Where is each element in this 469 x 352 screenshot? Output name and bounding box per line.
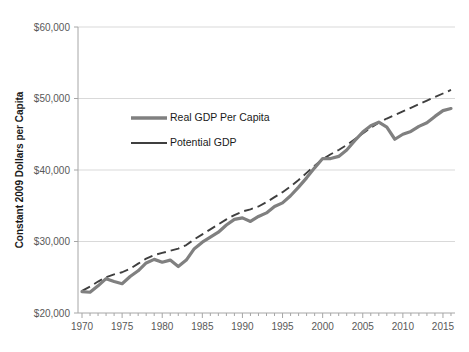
y-axis-tick-label: $60,000 <box>34 22 71 33</box>
x-axis-tick-label: 1990 <box>231 321 254 332</box>
x-axis-tick-label: 2005 <box>352 321 375 332</box>
x-axis-tick-label: 2000 <box>312 321 335 332</box>
x-axis-tick-label: 2015 <box>432 321 455 332</box>
y-axis-tick-label: $20,000 <box>34 308 71 319</box>
x-axis-tick-label: 1970 <box>71 321 94 332</box>
y-axis-title: Constant 2009 Dollars per Capita <box>14 91 25 248</box>
x-axis-tick-label: 1995 <box>271 321 294 332</box>
x-axis-tick-label: 1980 <box>151 321 174 332</box>
x-axis-tick-label: 2010 <box>392 321 415 332</box>
legend-label: Real GDP Per Capita <box>170 111 270 123</box>
y-axis-tick-label: $40,000 <box>34 165 71 176</box>
chart-background <box>0 0 469 352</box>
chart-canvas: $20,000$30,000$40,000$50,000$60,000 1970… <box>0 0 469 352</box>
y-axis-tick-label: $50,000 <box>34 93 71 104</box>
y-axis-tick-label: $30,000 <box>34 236 71 247</box>
legend-label: Potential GDP <box>170 136 237 148</box>
x-axis-tick-label: 1985 <box>191 321 214 332</box>
gdp-chart: $20,000$30,000$40,000$50,000$60,000 1970… <box>0 0 469 352</box>
x-axis-tick-label: 1975 <box>111 321 134 332</box>
